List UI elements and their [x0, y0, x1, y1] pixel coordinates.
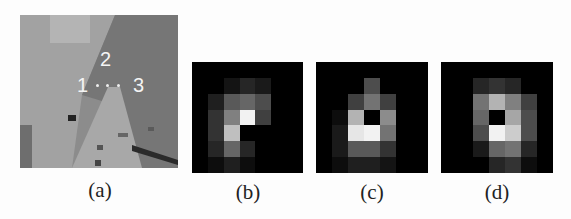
heatmap-cell	[412, 157, 428, 173]
heatmap-cell	[441, 78, 457, 94]
heatmap-cell	[316, 141, 332, 157]
heatmap-cell	[396, 78, 412, 94]
heatmap-grid-d	[441, 62, 553, 173]
heatmap-cell	[473, 94, 489, 110]
heatmap-cell	[316, 94, 332, 110]
heatmap-cell	[240, 62, 256, 78]
heatmap-cell	[332, 62, 348, 78]
heatmap-cell	[240, 157, 256, 173]
heatmap-cell	[332, 141, 348, 157]
heatmap-cell	[489, 94, 505, 110]
heatmap-cell	[521, 78, 537, 94]
heatmap-cell	[224, 141, 240, 157]
heatmap-cell	[364, 141, 380, 157]
heatmap-cell	[489, 157, 505, 173]
heatmap-cell	[316, 125, 332, 141]
heatmap-cell	[240, 78, 256, 94]
heatmap-cell	[192, 62, 208, 78]
heatmap-cell	[348, 125, 364, 141]
heatmap-cell	[287, 110, 303, 126]
heatmap-cell	[412, 62, 428, 78]
heatmap-cell	[192, 78, 208, 94]
heatmap-cell	[412, 78, 428, 94]
heatmap-cell	[348, 141, 364, 157]
heatmap-cell	[208, 157, 224, 173]
heatmap-cell	[271, 125, 287, 141]
heatmap-cell	[505, 157, 521, 173]
heatmap-cell	[489, 141, 505, 157]
heatmap-cell	[489, 110, 505, 126]
heatmap-cell	[271, 141, 287, 157]
scene-patch	[20, 15, 178, 168]
heatmap-cell	[505, 141, 521, 157]
heatmap-cell	[537, 62, 553, 78]
panel-b-heatmap	[192, 62, 303, 173]
heatmap-cell	[192, 125, 208, 141]
heatmap-cell	[208, 141, 224, 157]
caption-d: (d)	[467, 180, 527, 205]
heatmap-cell	[537, 94, 553, 110]
heatmap-grid-b	[192, 62, 303, 173]
heatmap-cell	[505, 78, 521, 94]
heatmap-cell	[224, 125, 240, 141]
heatmap-cell	[537, 110, 553, 126]
heatmap-cell	[396, 94, 412, 110]
heatmap-cell	[255, 94, 271, 110]
heatmap-cell	[412, 94, 428, 110]
heatmap-cell	[457, 62, 473, 78]
heatmap-cell	[380, 110, 396, 126]
heatmap-cell	[208, 125, 224, 141]
heatmap-cell	[521, 125, 537, 141]
heatmap-cell	[287, 94, 303, 110]
heatmap-cell	[380, 141, 396, 157]
heatmap-cell	[364, 125, 380, 141]
heatmap-cell	[457, 157, 473, 173]
heatmap-cell	[240, 141, 256, 157]
heatmap-cell	[271, 94, 287, 110]
heatmap-cell	[208, 62, 224, 78]
heatmap-cell	[457, 78, 473, 94]
panel-a-image: 2 1 3	[20, 15, 178, 168]
heatmap-cell	[412, 141, 428, 157]
heatmap-cell	[224, 110, 240, 126]
heatmap-cell	[505, 125, 521, 141]
heatmap-cell	[364, 94, 380, 110]
heatmap-cell	[457, 141, 473, 157]
heatmap-cell	[287, 78, 303, 94]
caption-b: (b)	[218, 180, 278, 205]
heatmap-cell	[505, 94, 521, 110]
heatmap-cell	[332, 110, 348, 126]
heatmap-cell	[441, 110, 457, 126]
heatmap-cell	[396, 157, 412, 173]
caption-a: (a)	[70, 178, 130, 203]
heatmap-cell	[271, 110, 287, 126]
heatmap-cell	[521, 110, 537, 126]
heatmap-cell	[521, 141, 537, 157]
heatmap-cell	[224, 62, 240, 78]
heatmap-cell	[192, 110, 208, 126]
heatmap-cell	[271, 62, 287, 78]
heatmap-cell	[316, 62, 332, 78]
heatmap-cell	[287, 157, 303, 173]
heatmap-cell	[255, 125, 271, 141]
heatmap-cell	[192, 157, 208, 173]
heatmap-cell	[441, 141, 457, 157]
heatmap-cell	[316, 78, 332, 94]
heatmap-cell	[537, 125, 553, 141]
heatmap-cell	[473, 125, 489, 141]
heatmap-cell	[287, 62, 303, 78]
heatmap-cell	[348, 78, 364, 94]
heatmap-cell	[489, 125, 505, 141]
heatmap-cell	[240, 94, 256, 110]
heatmap-cell	[473, 78, 489, 94]
heatmap-cell	[364, 157, 380, 173]
heatmap-cell	[224, 78, 240, 94]
heatmap-cell	[348, 94, 364, 110]
heatmap-cell	[396, 125, 412, 141]
heatmap-cell	[473, 62, 489, 78]
panel-d-heatmap	[441, 62, 553, 173]
heatmap-cell	[255, 62, 271, 78]
heatmap-cell	[208, 78, 224, 94]
heatmap-cell	[473, 110, 489, 126]
panel-c-heatmap	[316, 62, 428, 173]
